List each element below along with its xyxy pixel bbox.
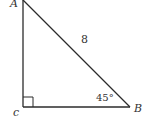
angle-b-label: 45° — [96, 92, 114, 103]
vertex-label-a: A — [9, 0, 18, 10]
hypotenuse-length-label: 8 — [81, 33, 88, 46]
vertex-label-c: c — [13, 106, 19, 119]
hypotenuse-ab — [23, 0, 130, 107]
vertex-label-b: B — [133, 102, 142, 115]
right-triangle-diagram: A c B 8 45° — [0, 0, 153, 126]
right-angle-marker-icon — [23, 97, 33, 107]
